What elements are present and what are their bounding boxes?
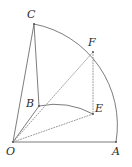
figure-canvas xyxy=(0,0,132,167)
arc-E-B xyxy=(39,104,93,114)
segment-CB xyxy=(34,24,39,106)
segment-OE xyxy=(13,114,93,142)
vertex-label-B: B xyxy=(26,98,34,109)
geometry-figure: O A B C E F xyxy=(0,0,132,167)
vertex-dot-C xyxy=(33,23,35,25)
vertex-dot-F xyxy=(92,51,94,53)
vertex-label-C: C xyxy=(27,9,35,20)
segment-OF xyxy=(13,52,93,142)
vertex-dot-A xyxy=(115,141,117,143)
vertex-label-A: A xyxy=(112,146,120,157)
segment-OB xyxy=(13,106,39,142)
vertex-dot-B xyxy=(38,105,40,107)
vertex-label-F: F xyxy=(88,37,96,48)
arc-A-F-C xyxy=(34,24,117,142)
vertex-label-O: O xyxy=(6,146,15,157)
segment-OC xyxy=(13,24,34,142)
vertex-dot-O xyxy=(12,141,14,143)
vertex-label-E: E xyxy=(95,103,103,114)
vertex-dot-E xyxy=(92,113,94,115)
